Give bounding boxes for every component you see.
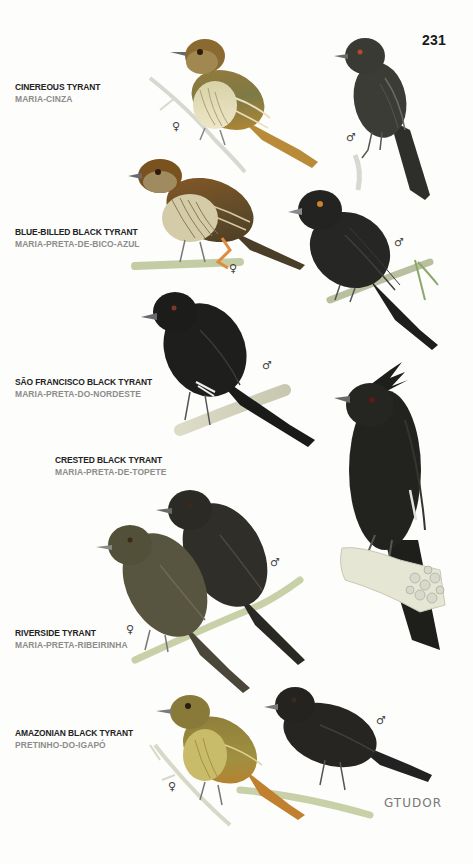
male-symbol-icon: ♂ (394, 237, 404, 248)
english-name: AMAZONIAN BLACK TYRANT (15, 727, 133, 739)
english-name: RIVERSIDE TYRANT (15, 627, 128, 639)
english-name: SÃO FRANCISCO BLACK TYRANT (15, 376, 152, 388)
male-symbol-icon: ♂ (346, 132, 356, 143)
species-label-blue-billed-black-tyrant: BLUE-BILLED BLACK TYRANT MARIA-PRETA-DE-… (15, 226, 150, 250)
portuguese-name: MARIA-PRETA-RIBEIRINHA (15, 639, 128, 651)
english-name: CINEREOUS TYRANT (15, 81, 100, 93)
female-symbol-icon: ♀ (126, 624, 134, 635)
species-label-amazonian-black-tyrant: AMAZONIAN BLACK TYRANT PRETINHO-DO-IGAPÓ (15, 727, 143, 751)
portuguese-name: MARIA-PRETA-DE-TOPETE (55, 466, 167, 478)
species-label-riverside-tyrant: RIVERSIDE TYRANT MARIA-PRETA-RIBEIRINHA (15, 627, 137, 651)
species-label-cinereous-tyrant: CINEREOUS TYRANT MARIA-CINZA (15, 81, 108, 105)
english-name: CRESTED BLACK TYRANT (55, 454, 167, 466)
portuguese-name: PRETINHO-DO-IGAPÓ (15, 739, 133, 751)
english-name: BLUE-BILLED BLACK TYRANT (15, 226, 140, 238)
species-label-sao-francisco-black-tyrant: SÃO FRANCISCO BLACK TYRANT MARIA-PRETA-D… (15, 376, 164, 400)
portuguese-name: MARIA-CINZA (15, 93, 100, 105)
artist-signature: GTUDOR (384, 796, 442, 810)
portuguese-name: MARIA-PRETA-DO-NORDESTE (15, 388, 152, 400)
male-symbol-icon: ♂ (376, 715, 386, 726)
portuguese-name: MARIA-PRETA-DE-BICO-AZUL (15, 238, 140, 250)
male-symbol-icon: ♂ (262, 360, 272, 371)
page-number: 231 (422, 32, 446, 48)
female-symbol-icon: ♀ (172, 121, 180, 132)
species-label-crested-black-tyrant: CRESTED BLACK TYRANT MARIA-PRETA-DE-TOPE… (55, 454, 176, 478)
male-symbol-icon: ♂ (270, 557, 280, 568)
female-symbol-icon: ♀ (168, 781, 176, 792)
female-symbol-icon: ♀ (229, 263, 237, 274)
